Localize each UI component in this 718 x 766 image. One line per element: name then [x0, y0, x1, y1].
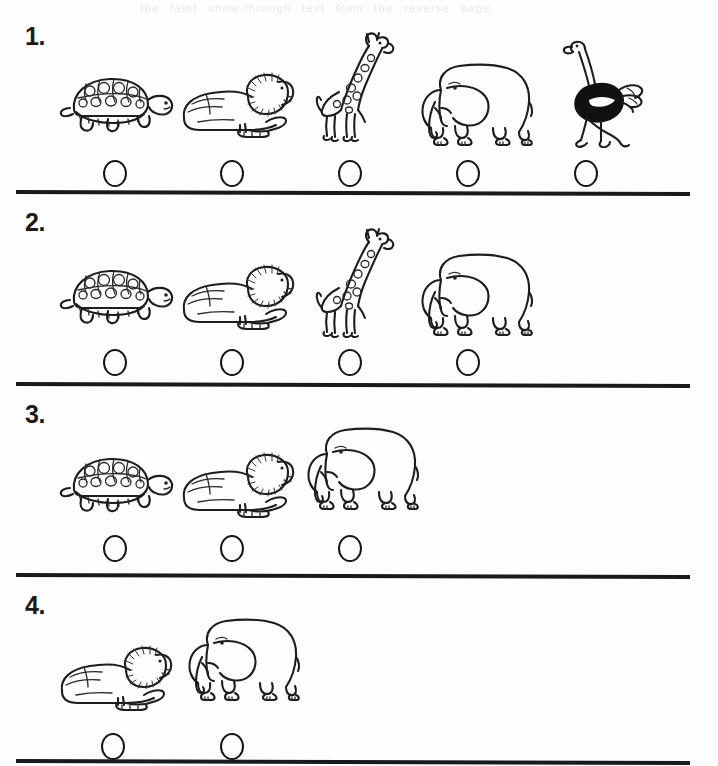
row-divider-4 — [16, 759, 690, 765]
answer-bubble[interactable] — [103, 160, 127, 187]
answer-bubble[interactable] — [338, 535, 362, 562]
answer-bubble[interactable] — [220, 733, 244, 760]
lion-icon — [178, 262, 296, 330]
row-number-4: 4. — [25, 591, 45, 620]
answer-bubble[interactable] — [101, 733, 125, 760]
answer-bubble[interactable] — [338, 349, 362, 376]
answer-bubble[interactable] — [338, 160, 362, 187]
showthrough-ghost-text: the faint show-through text from the rev… — [140, 2, 670, 38]
lion-icon — [178, 450, 296, 518]
giraffe-icon — [313, 226, 395, 338]
lion-icon — [56, 643, 174, 711]
turtle-icon — [56, 256, 176, 326]
elephant-icon — [411, 248, 535, 340]
answer-bubble[interactable] — [220, 160, 244, 187]
row-number-1: 1. — [25, 22, 45, 51]
turtle-icon — [56, 444, 176, 514]
row-divider-3 — [16, 573, 690, 579]
answer-bubble[interactable] — [456, 349, 480, 376]
giraffe-icon — [313, 30, 395, 142]
turtle-icon — [56, 64, 176, 134]
answer-bubble[interactable] — [103, 349, 127, 376]
answer-bubble[interactable] — [220, 349, 244, 376]
row-number-2: 2. — [25, 208, 45, 237]
row-divider-1 — [16, 190, 690, 196]
elephant-icon — [411, 58, 535, 150]
worksheet-page: the faint show-through text from the rev… — [0, 0, 718, 766]
ostrich-icon — [553, 38, 645, 148]
answer-bubble[interactable] — [103, 535, 127, 562]
lion-icon — [178, 70, 296, 138]
elephant-icon — [178, 613, 302, 705]
answer-bubble[interactable] — [220, 535, 244, 562]
row-divider-2 — [16, 382, 690, 388]
answer-bubble[interactable] — [456, 160, 480, 187]
row-number-3: 3. — [25, 400, 45, 429]
elephant-icon — [297, 422, 421, 514]
answer-bubble[interactable] — [574, 160, 598, 187]
